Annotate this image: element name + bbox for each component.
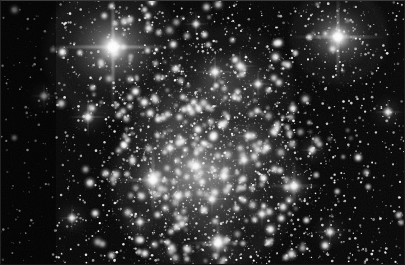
star-field-image: Star cluster field dense stellar cluster… — [0, 0, 405, 265]
sky-canvas — [0, 0, 405, 265]
sensor-noise-overlay — [0, 0, 405, 265]
left-vignette — [0, 0, 56, 265]
